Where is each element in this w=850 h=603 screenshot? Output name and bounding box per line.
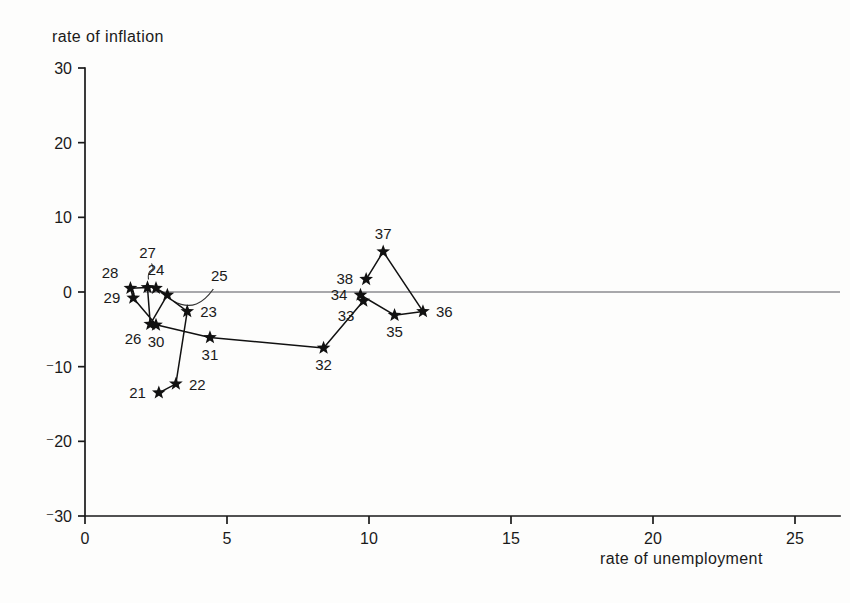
x-tick-label: 5 [223,530,232,547]
data-point-label: 31 [202,346,219,363]
series-line-group [130,252,423,393]
point-labels-group: 212223242526272829303132333435363738 [102,225,453,401]
data-point-label: 26 [125,330,142,347]
data-point-label: 32 [315,356,332,373]
data-point-marker[interactable] [359,272,373,285]
y-tick-label: 10 [54,209,72,226]
data-point-label: 28 [102,264,119,281]
y-tick-label: ⁻10 [46,359,72,376]
x-tick-label: 10 [360,530,378,547]
data-point-label: 29 [104,289,121,306]
y-tick-label: ⁻30 [46,508,72,525]
data-point-label: 21 [129,384,146,401]
chart-canvas: rate of inflation rate of unemployment 3… [0,0,850,603]
data-point-label: 24 [148,261,165,278]
data-point-label: 36 [436,303,453,320]
series-polyline [130,252,423,393]
tick-marks-group [78,68,795,524]
y-tick-label: ⁻20 [46,433,72,450]
y-tick-label: 0 [63,284,72,301]
data-markers-group [124,244,430,398]
x-tick-label: 0 [81,530,90,547]
data-point-marker[interactable] [161,288,175,301]
data-point-marker[interactable] [416,304,430,317]
x-tick-label: 20 [644,530,662,547]
data-point-marker[interactable] [203,330,217,343]
data-point-label: 37 [375,225,392,242]
y-tick-label: 20 [54,135,72,152]
data-point-label: 35 [386,323,403,340]
data-point-label: 25 [211,267,228,284]
data-point-marker[interactable] [388,308,402,321]
data-point-marker[interactable] [126,291,140,304]
data-point-marker[interactable] [169,377,183,390]
data-point-label: 23 [200,303,217,320]
data-point-marker[interactable] [376,244,390,257]
data-point-label: 38 [336,270,353,287]
scatter-plot: 3020100⁻10⁻20⁻300510152025 2122232425262… [0,0,850,603]
x-tick-label: 15 [502,530,520,547]
data-point-label: 34 [331,286,348,303]
data-point-label: 33 [338,307,355,324]
data-point-label: 27 [139,244,156,261]
data-point-label: 22 [189,376,206,393]
tick-labels-group: 3020100⁻10⁻20⁻300510152025 [46,60,804,547]
data-point-marker[interactable] [124,281,138,294]
y-tick-label: 30 [54,60,72,77]
data-point-marker[interactable] [152,386,166,399]
x-tick-label: 25 [786,530,804,547]
data-point-label: 30 [148,333,165,350]
